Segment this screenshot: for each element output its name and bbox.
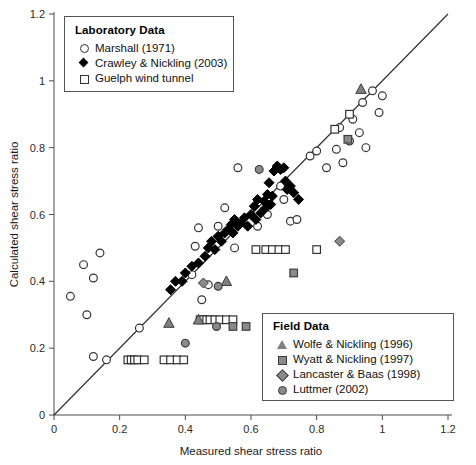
data-point-marker — [282, 246, 290, 254]
triangle-gray-icon — [276, 338, 290, 351]
data-point-marker — [214, 222, 222, 230]
data-point-marker — [344, 136, 352, 144]
data-point-marker — [80, 261, 88, 269]
x-tick-label: 0.2 — [112, 423, 127, 435]
data-point-marker — [369, 87, 377, 95]
data-point-marker — [313, 246, 321, 254]
diamond-gray-icon — [276, 368, 290, 381]
data-point-marker — [335, 236, 345, 246]
x-tick-label: 0.8 — [309, 423, 324, 435]
y-tick-label: 1.2 — [30, 8, 45, 20]
data-point-marker — [359, 99, 367, 107]
x-axis-title: Measured shear stress ratio — [180, 445, 323, 457]
data-point-marker — [180, 356, 188, 364]
data-point-marker — [332, 145, 340, 153]
data-point-marker — [135, 324, 143, 332]
data-point-marker — [331, 125, 339, 133]
data-point-marker — [90, 274, 98, 282]
x-tick-label: 0 — [51, 423, 57, 435]
x-tick-label: 0.4 — [178, 423, 193, 435]
data-point-marker — [191, 242, 199, 250]
data-point-marker — [293, 216, 301, 224]
y-tick-label: 0.6 — [30, 209, 45, 221]
data-point-marker — [213, 323, 221, 331]
legend-label-lancaster-baas: Lancaster & Baas (1998) — [293, 368, 420, 381]
square-gray-icon — [276, 353, 290, 366]
data-point-marker — [280, 196, 288, 204]
data-point-marker — [378, 92, 386, 100]
legend-field-title: Field Data — [273, 320, 444, 332]
y-tick-label: 0.2 — [30, 342, 45, 354]
y-tick-label: 1 — [39, 75, 45, 87]
legend-item-crawley-nickling: Crawley & Nickling (2003) — [78, 56, 224, 71]
legend-label-luttmer: Luttmer (2002) — [293, 383, 368, 396]
data-point-marker — [252, 246, 260, 254]
series-wyatt-nickling-1997 — [229, 136, 352, 331]
legend-label-crawley-nickling: Crawley & Nickling (2003) — [95, 57, 227, 70]
legend-laboratory-data: Laboratory Data Marshall (1971) Crawley … — [64, 16, 234, 92]
data-point-marker — [214, 282, 222, 290]
legend-laboratory-title: Laboratory Data — [75, 24, 224, 36]
data-point-marker — [346, 110, 354, 118]
legend-item-wyatt-nickling: Wyatt & Nickling (1997) — [276, 352, 444, 367]
data-point-marker — [96, 249, 104, 257]
data-point-marker — [362, 144, 370, 152]
data-point-marker — [181, 339, 189, 347]
square-open-icon — [78, 72, 92, 85]
legend-label-wolfe-nickling: Wolfe & Nickling (1996) — [293, 338, 413, 351]
legend-field-data: Field Data Wolfe & Nickling (1996) Wyatt… — [262, 313, 454, 401]
legend-label-wyatt-nickling: Wyatt & Nickling (1997) — [293, 353, 413, 366]
data-point-marker — [356, 84, 366, 94]
data-point-marker — [221, 204, 229, 212]
data-point-marker — [83, 311, 91, 319]
circle-open-icon — [78, 42, 92, 55]
legend-item-luttmer: Luttmer (2002) — [276, 382, 444, 397]
data-point-marker — [231, 244, 239, 252]
data-point-marker — [67, 292, 75, 300]
legend-label-marshall: Marshall (1971) — [95, 42, 175, 55]
data-point-marker — [313, 147, 321, 155]
circle-gray-icon — [276, 383, 290, 396]
data-point-marker — [264, 178, 274, 188]
data-point-marker — [255, 165, 263, 173]
data-point-marker — [229, 323, 237, 331]
data-point-marker — [375, 109, 383, 117]
scatter-plot-figure: 00.20.40.60.811.200.20.40.60.811.2 Measu… — [0, 0, 476, 465]
legend-item-guelph-wind-tunnel: Guelph wind tunnel — [78, 71, 224, 86]
data-point-marker — [164, 318, 174, 328]
data-point-marker — [355, 129, 363, 137]
data-point-marker — [323, 164, 331, 172]
y-tick-label: 0.4 — [30, 275, 45, 287]
axis-labels: Measured shear stress ratioCalculated sh… — [8, 142, 322, 457]
legend-item-lancaster-baas: Lancaster & Baas (1998) — [276, 367, 444, 382]
y-tick-label: 0.8 — [30, 142, 45, 154]
data-point-marker — [198, 296, 206, 304]
y-tick-label: 0 — [39, 409, 45, 421]
legend-label-guelph-wind-tunnel: Guelph wind tunnel — [95, 72, 193, 85]
legend-item-marshall: Marshall (1971) — [78, 41, 224, 56]
data-point-marker — [234, 164, 242, 172]
x-tick-label: 1 — [379, 423, 385, 435]
x-tick-label: 0.6 — [243, 423, 258, 435]
data-point-marker — [242, 323, 250, 331]
data-point-marker — [103, 356, 111, 364]
data-point-marker — [195, 224, 203, 232]
legend-item-wolfe-nickling: Wolfe & Nickling (1996) — [276, 337, 444, 352]
y-axis-title: Calculated shear stress ratio — [8, 142, 20, 288]
data-point-marker — [140, 356, 148, 364]
diamond-filled-icon — [78, 57, 92, 70]
x-tick-label: 1.2 — [440, 423, 455, 435]
data-point-marker — [290, 269, 298, 277]
data-point-marker — [339, 159, 347, 167]
data-point-marker — [90, 353, 98, 361]
data-point-marker — [221, 276, 231, 286]
series-crawley-nickling-2003 — [166, 161, 304, 295]
